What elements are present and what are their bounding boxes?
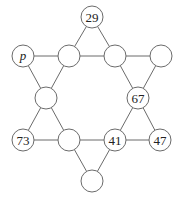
node-upper-inner-right bbox=[104, 45, 126, 67]
nodes: 29 p 67 73 bbox=[12, 6, 172, 192]
node-label-lower-left: 73 bbox=[17, 133, 30, 148]
node-top: 29 bbox=[81, 6, 103, 28]
node-mid-right: 67 bbox=[127, 87, 149, 109]
node-label-lower-right: 47 bbox=[154, 133, 168, 148]
hexagram-diagram: 29 p 67 73 bbox=[0, 0, 181, 204]
node-lower-left: 73 bbox=[12, 129, 34, 151]
node-label-upper-left: p bbox=[19, 48, 27, 63]
node-mid-left bbox=[35, 87, 57, 109]
node-lower-right: 47 bbox=[149, 129, 171, 151]
node-label-lower-inner-right: 41 bbox=[109, 133, 122, 148]
node-lower-inner-right: 41 bbox=[104, 129, 126, 151]
node-upper-left: p bbox=[12, 45, 34, 67]
node-lower-inner-left bbox=[58, 129, 80, 151]
node-upper-inner-left bbox=[58, 45, 80, 67]
node-upper-right bbox=[150, 45, 172, 67]
node-label-mid-right: 67 bbox=[132, 91, 146, 106]
node-label-top: 29 bbox=[86, 10, 99, 25]
node-bottom bbox=[81, 170, 103, 192]
